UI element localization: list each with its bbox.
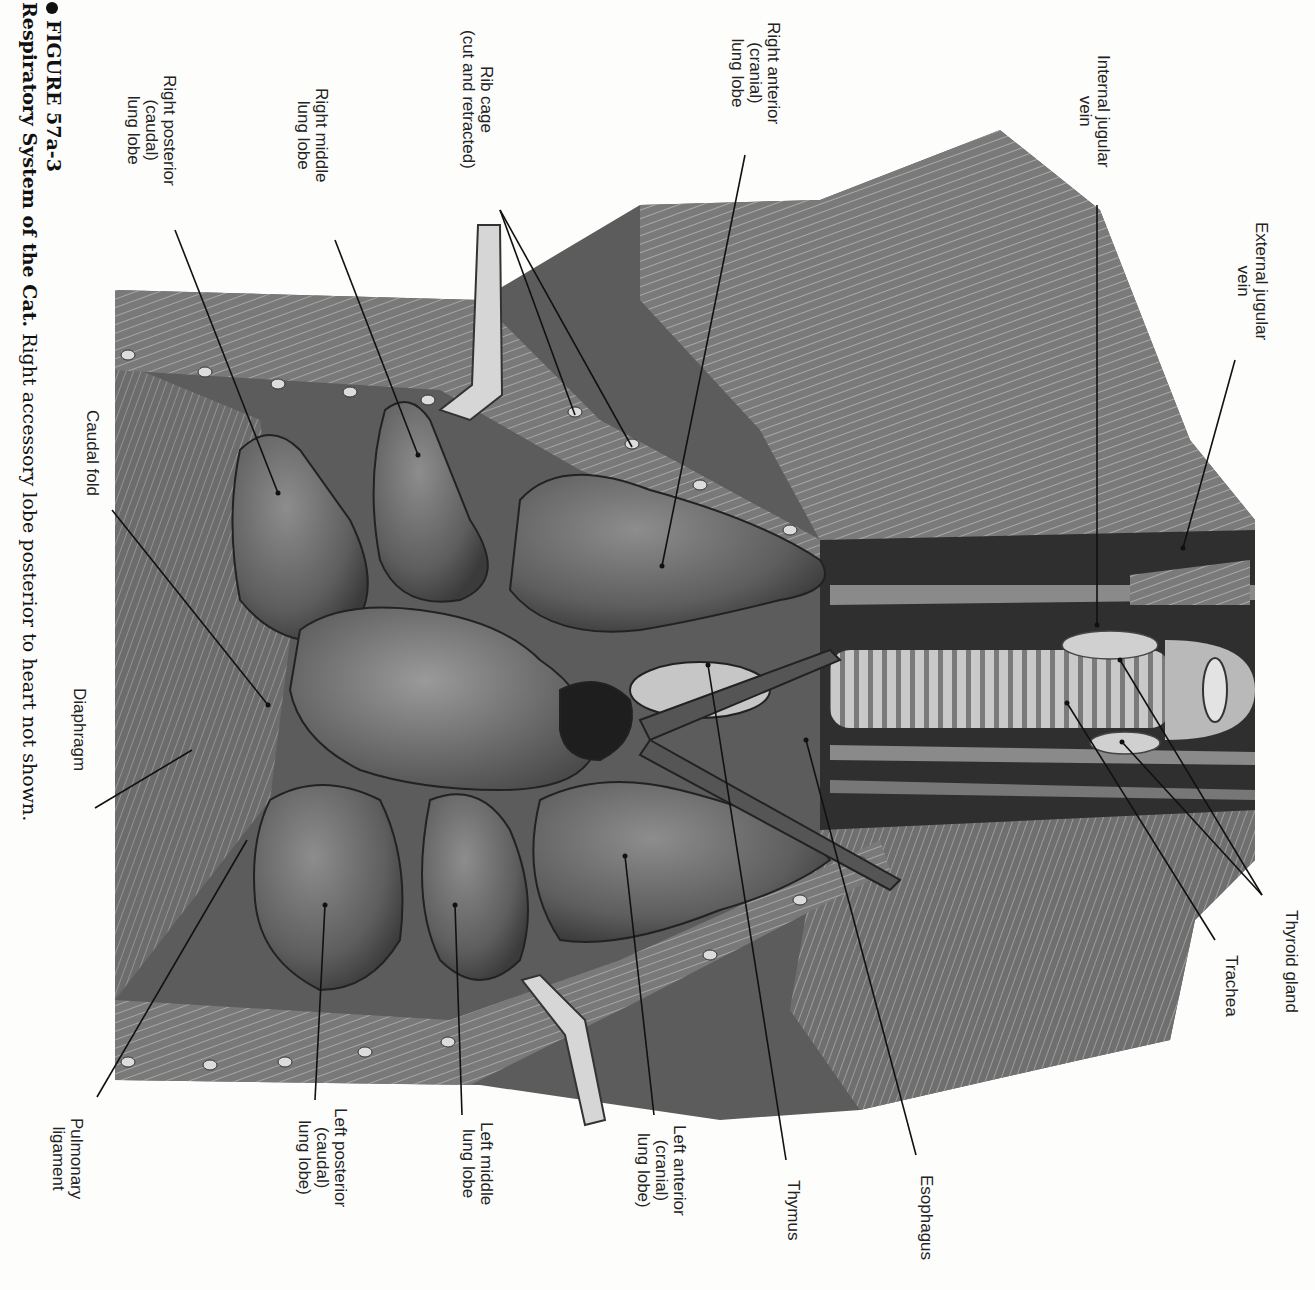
figure-number: FIGURE 57a-3 xyxy=(43,20,65,172)
label-left-posterior-lung-lobe: Left posterior (caudal) lung lobe) xyxy=(295,1108,349,1207)
label-pulmonary-ligament: Pulmonary ligament xyxy=(49,1118,85,1199)
label-rib-cage: Rib cage (cut and retracted) xyxy=(459,30,495,169)
label-right-posterior-lung-lobe: Right posterior (caudal) lung lobe xyxy=(124,75,178,186)
label-left-anterior-lung-lobe: Left anterior (cranial) lung lobe) xyxy=(634,1125,688,1216)
figure-caption: FIGURE 57a-3 Respiratory System of the C… xyxy=(18,2,66,821)
label-right-anterior-lung-lobe: Right anterior (cranial) lung lobe xyxy=(728,22,782,124)
label-left-middle-lung-lobe: Left middle lung lobe xyxy=(459,1122,495,1205)
label-thyroid-gland: Thyroid gland xyxy=(1282,910,1300,1013)
figure-caption-text: Right accessory lobe posterior to heart … xyxy=(19,333,41,821)
label-thymus: Thymus xyxy=(784,1180,802,1240)
label-trachea: Trachea xyxy=(1222,955,1240,1017)
bullet-icon xyxy=(46,2,58,14)
label-diaphragm: Diaphragm xyxy=(70,688,88,771)
label-esophagus: Esophagus xyxy=(917,1175,935,1260)
anatomy-illustration xyxy=(0,0,1315,1290)
label-internal-jugular-vein: Internal jugular vein xyxy=(1076,55,1112,167)
label-right-middle-lung-lobe: Right middle lung lobe xyxy=(294,88,330,183)
label-caudal-fold: Caudal fold xyxy=(83,410,101,496)
neck-structures xyxy=(820,530,1255,830)
label-external-jugular-vein: External jugular vein xyxy=(1234,222,1270,340)
figure-title: Respiratory System of the Cat. xyxy=(19,2,41,327)
thyroid-shape xyxy=(1062,631,1158,659)
